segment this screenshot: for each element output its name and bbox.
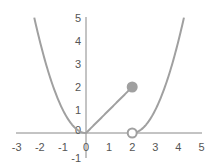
- y-tick-label: 1: [75, 104, 81, 116]
- x-tick-label: 0: [83, 141, 89, 153]
- x-tick-label: 4: [175, 141, 181, 153]
- curves: [34, 18, 184, 133]
- y-tick-label: 5: [75, 12, 81, 24]
- x-tick-label: 3: [152, 141, 158, 153]
- y-tick-label: 3: [75, 58, 81, 70]
- x-tick-label: 1: [106, 141, 112, 153]
- x-tick-label: 2: [129, 141, 135, 153]
- x-tick-label: -3: [12, 141, 22, 153]
- open-point-marker: [128, 129, 137, 138]
- y-tick-label: 2: [75, 81, 81, 93]
- y-tick-label: 4: [75, 35, 81, 47]
- axes: [16, 17, 202, 158]
- right-parabola-curve: [132, 18, 184, 133]
- middle-line-curve: [86, 87, 132, 133]
- y-tick-label: -1: [71, 152, 81, 164]
- x-tick-label: 5: [198, 141, 204, 153]
- piecewise-function-chart: -3-2-1012345543210-1: [0, 0, 213, 167]
- points: [128, 83, 137, 138]
- tick-labels: -3-2-1012345543210-1: [12, 12, 205, 164]
- closed-point-marker: [128, 83, 137, 92]
- x-tick-label: -2: [35, 141, 45, 153]
- x-tick-label: -1: [58, 141, 68, 153]
